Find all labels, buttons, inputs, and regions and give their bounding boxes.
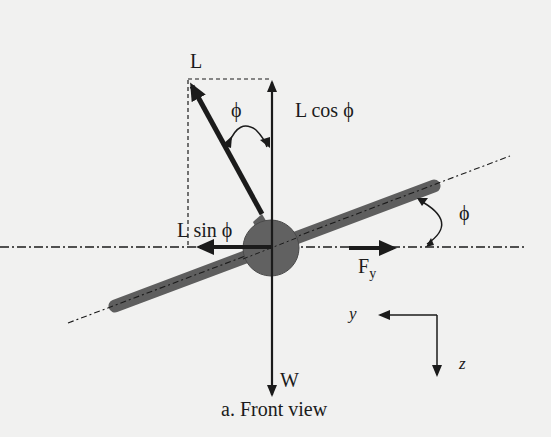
bank-angle-label-right: ϕ: [459, 203, 470, 223]
bank-angle-arc-top: [222, 126, 270, 148]
lift-vertical-label: L cos ϕ: [295, 100, 354, 120]
axis-y-label: y: [349, 305, 357, 322]
lift-horizontal-label: L sin ϕ: [177, 220, 232, 240]
figure-caption: a. Front view: [221, 399, 327, 419]
bank-angle-label-top: ϕ: [231, 100, 242, 120]
side-force-label: Fy: [358, 256, 376, 276]
side-force-label-subscript: y: [369, 266, 376, 281]
body-axes: [380, 315, 437, 375]
weight-label: W: [280, 370, 299, 390]
side-force-label-main: F: [358, 255, 369, 277]
lift-label: L: [190, 51, 202, 71]
bank-angle-arc-right: [417, 198, 442, 247]
axis-z-label: z: [459, 355, 466, 372]
lift-vector-arrow: [192, 86, 262, 214]
front-view-diagram: L ϕ L cos ϕ L sin ϕ ϕ Fy y z W a. Front …: [0, 0, 551, 437]
